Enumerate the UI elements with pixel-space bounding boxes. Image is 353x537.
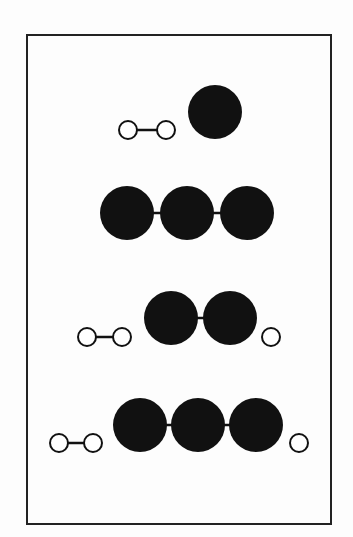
small-atom-icon [113, 328, 131, 346]
large-atom-icon [203, 291, 257, 345]
large-atom-icon [144, 291, 198, 345]
diagram-frame [27, 35, 331, 524]
small-atom-icon [262, 328, 280, 346]
molecule-diagram [0, 0, 353, 537]
molecule-rows [50, 85, 308, 452]
large-atom-icon [113, 398, 167, 452]
large-atom-icon [188, 85, 242, 139]
large-atom-icon [220, 186, 274, 240]
row-3 [78, 291, 280, 346]
row-4 [50, 398, 308, 452]
small-atom-icon [290, 434, 308, 452]
small-atom-icon [119, 121, 137, 139]
row-1 [119, 85, 242, 139]
large-atom-icon [100, 186, 154, 240]
small-atom-icon [78, 328, 96, 346]
large-atom-icon [160, 186, 214, 240]
large-atom-icon [171, 398, 225, 452]
small-atom-icon [157, 121, 175, 139]
small-atom-icon [84, 434, 102, 452]
large-atom-icon [229, 398, 283, 452]
small-atom-icon [50, 434, 68, 452]
row-2 [100, 186, 274, 240]
